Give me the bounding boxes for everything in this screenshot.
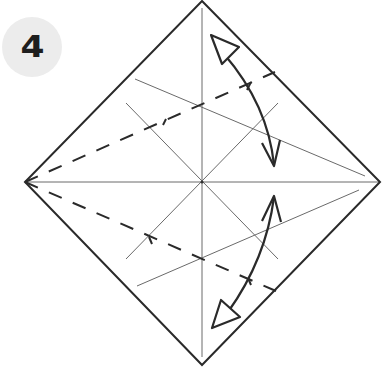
valley-fold-lower [25,182,276,291]
crease-upper-angled [135,79,365,176]
center-point [201,181,204,184]
fold-unfold-arrow-lower [212,196,281,328]
origami-diagram [0,0,387,367]
valley-fold-upper [25,72,275,182]
fold-unfold-arrow-upper [211,35,280,166]
